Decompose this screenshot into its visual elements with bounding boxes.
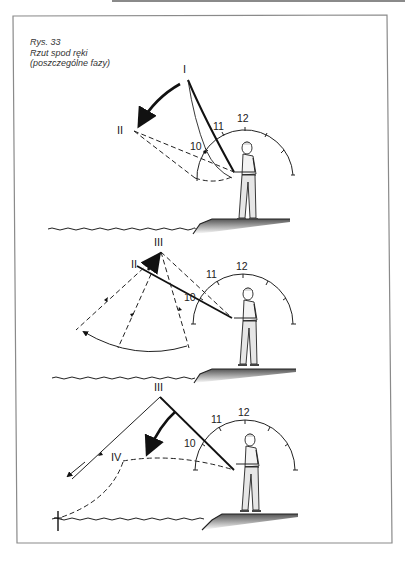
- clock-label: 10: [184, 291, 196, 303]
- panel-phase-1: I II 10 11 12: [48, 63, 295, 234]
- phase-label: III: [154, 236, 163, 248]
- river-bank: [194, 369, 296, 383]
- water-line: [52, 518, 204, 520]
- phase-label: III: [154, 381, 163, 393]
- motion-arrow-icon: [140, 84, 180, 124]
- clock-label: 11: [211, 413, 222, 425]
- casting-figure: I II 10 11 12: [0, 0, 405, 561]
- figure-title: Rzut spod ręki: [30, 48, 110, 59]
- panel-phase-3: III IV 10 11 12: [52, 381, 298, 531]
- figure-frame: [13, 15, 392, 543]
- clock-label: 10: [184, 437, 196, 449]
- phase-label: I: [183, 63, 186, 75]
- panel-phase-2: III II 10 11 12: [52, 236, 296, 383]
- water-line: [48, 228, 195, 230]
- clock-label: 10: [190, 140, 202, 152]
- clock-label: 11: [213, 120, 224, 132]
- clock-label: 12: [237, 112, 249, 124]
- water-line: [52, 377, 195, 379]
- phase-label: II: [131, 258, 137, 270]
- figure-caption: Rys. 33 Rzut spod ręki (poszczególne faz…: [30, 37, 110, 69]
- motion-arrow-icon: [148, 412, 175, 452]
- river-bank: [202, 514, 298, 530]
- clock-label: 12: [236, 260, 248, 272]
- figure-subtitle: (poszczególne fazy): [30, 58, 110, 69]
- swing-arrow-icon: [84, 332, 187, 352]
- clock-label: 12: [238, 406, 250, 418]
- phase-label: II: [117, 124, 123, 136]
- figure-number: Rys. 33: [30, 37, 110, 48]
- phase-label: IV: [111, 451, 122, 463]
- clock-label: 11: [206, 268, 217, 280]
